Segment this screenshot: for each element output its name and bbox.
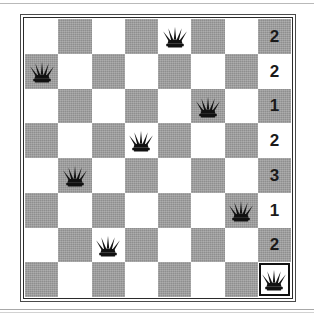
- board-square-r6c5[interactable]: [158, 193, 191, 228]
- board-square-r2c2[interactable]: [58, 54, 91, 89]
- row-count-label-r6: 1: [258, 193, 291, 228]
- board-square-r5c7[interactable]: [225, 158, 258, 193]
- board-square-r5c6[interactable]: [191, 158, 224, 193]
- board-square-r3c3[interactable]: [92, 89, 125, 124]
- board-square-r2c8[interactable]: 2: [258, 54, 291, 89]
- board-square-r5c4[interactable]: [125, 158, 158, 193]
- board-square-r7c2[interactable]: [58, 228, 91, 263]
- board-square-r3c1[interactable]: [25, 89, 58, 124]
- queen-icon: [29, 61, 55, 83]
- board-square-r8c3[interactable]: [92, 262, 125, 297]
- board-square-r2c1[interactable]: [25, 54, 58, 89]
- queen-icon: [128, 130, 154, 152]
- board-square-r3c4[interactable]: [125, 89, 158, 124]
- board-square-r4c4[interactable]: [125, 123, 158, 158]
- board-square-r4c5[interactable]: [158, 123, 191, 158]
- board-square-r1c7[interactable]: [225, 19, 258, 54]
- board-square-r7c3[interactable]: [92, 228, 125, 263]
- chessboard-frame: 2212312: [20, 14, 296, 302]
- board-square-r8c4[interactable]: [125, 262, 158, 297]
- board-square-r6c2[interactable]: [58, 193, 91, 228]
- board-square-r8c1[interactable]: [25, 262, 58, 297]
- board-square-r7c8[interactable]: 2: [258, 228, 291, 263]
- board-square-r5c5[interactable]: [158, 158, 191, 193]
- queen-icon: [228, 200, 254, 222]
- board-square-r2c3[interactable]: [92, 54, 125, 89]
- board-square-r4c6[interactable]: [191, 123, 224, 158]
- board-square-r5c3[interactable]: [92, 158, 125, 193]
- board-square-r2c4[interactable]: [125, 54, 158, 89]
- board-square-r1c8[interactable]: 2: [258, 19, 291, 54]
- board-square-r7c5[interactable]: [158, 228, 191, 263]
- row-count-label-r7: 2: [258, 228, 291, 263]
- chessboard-grid[interactable]: 2212312: [25, 19, 291, 297]
- row-count-label-r5: 3: [258, 158, 291, 193]
- board-square-r5c1[interactable]: [25, 158, 58, 193]
- board-square-r5c2[interactable]: [58, 158, 91, 193]
- board-square-r8c2[interactable]: [58, 262, 91, 297]
- chessboard-inner-frame: 2212312: [23, 17, 293, 299]
- board-square-r4c8[interactable]: 2: [258, 123, 291, 158]
- board-square-r6c7[interactable]: [225, 193, 258, 228]
- queen-icon: [95, 235, 121, 257]
- board-square-r2c5[interactable]: [158, 54, 191, 89]
- board-square-r7c4[interactable]: [125, 228, 158, 263]
- board-square-r4c2[interactable]: [58, 123, 91, 158]
- board-square-r2c6[interactable]: [191, 54, 224, 89]
- board-square-r4c7[interactable]: [225, 123, 258, 158]
- board-square-r6c8[interactable]: 1: [258, 193, 291, 228]
- board-square-r3c8[interactable]: 1: [258, 89, 291, 124]
- board-square-r1c2[interactable]: [58, 19, 91, 54]
- row-count-label-r3: 1: [258, 89, 291, 124]
- board-square-r1c4[interactable]: [125, 19, 158, 54]
- page-rule-bottom: [0, 309, 314, 310]
- board-square-r3c2[interactable]: [58, 89, 91, 124]
- board-square-r8c6[interactable]: [191, 262, 224, 297]
- queen-icon: [62, 165, 88, 187]
- board-square-r3c6[interactable]: [191, 89, 224, 124]
- board-square-r7c1[interactable]: [25, 228, 58, 263]
- queen-icon: [261, 269, 287, 291]
- board-square-r6c4[interactable]: [125, 193, 158, 228]
- board-square-r1c5[interactable]: [158, 19, 191, 54]
- board-square-r7c6[interactable]: [191, 228, 224, 263]
- board-square-r1c3[interactable]: [92, 19, 125, 54]
- board-square-r4c1[interactable]: [25, 123, 58, 158]
- board-square-r1c6[interactable]: [191, 19, 224, 54]
- row-count-label-r2: 2: [258, 54, 291, 89]
- board-square-r7c7[interactable]: [225, 228, 258, 263]
- page-rule-top: [0, 3, 314, 4]
- board-square-r8c7[interactable]: [225, 262, 258, 297]
- board-square-r4c3[interactable]: [92, 123, 125, 158]
- row-count-label-r1: 2: [258, 19, 291, 54]
- board-square-r8c8[interactable]: [258, 262, 291, 297]
- board-square-r6c1[interactable]: [25, 193, 58, 228]
- queen-icon: [195, 96, 221, 118]
- queen-icon: [162, 26, 188, 48]
- board-square-r5c8[interactable]: 3: [258, 158, 291, 193]
- board-square-r2c7[interactable]: [225, 54, 258, 89]
- board-square-r8c5[interactable]: [158, 262, 191, 297]
- board-square-r1c1[interactable]: [25, 19, 58, 54]
- board-square-r6c6[interactable]: [191, 193, 224, 228]
- board-square-r3c5[interactable]: [158, 89, 191, 124]
- page-rule-bottom-2: [0, 312, 314, 313]
- row-count-label-r4: 2: [258, 123, 291, 158]
- board-square-r6c3[interactable]: [92, 193, 125, 228]
- board-square-r3c7[interactable]: [225, 89, 258, 124]
